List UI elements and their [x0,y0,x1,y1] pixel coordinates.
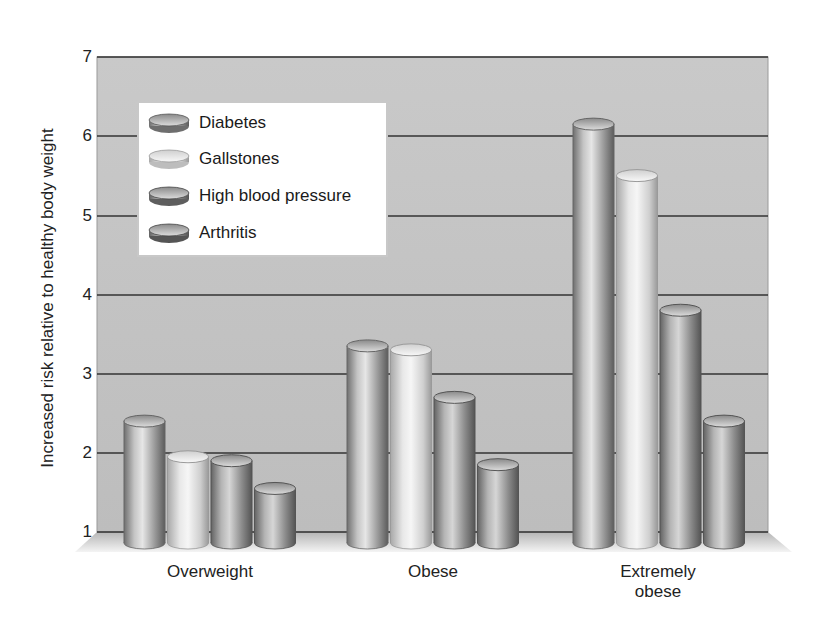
chart-canvas [0,0,818,617]
legend-item-high-blood-pressure: High blood pressure [147,184,351,208]
legend-item-arthritis: Arthritis [147,221,257,245]
legend-label: Diabetes [199,113,266,133]
legend: Diabetes Gallstones High blood pressure … [139,103,386,255]
legend-label: Arthritis [199,223,257,243]
legend-label: Gallstones [199,149,279,169]
y-tick-3: 3 [72,364,92,384]
legend-swatch-arthritis-icon [147,222,191,244]
bar-overweight-arthritis [255,482,296,549]
y-tick-6: 6 [72,126,92,146]
y-tick-1: 1 [72,522,92,542]
bar-extremely-obese-diabetes [573,118,614,549]
bar-obese-arthritis [478,459,519,549]
legend-item-gallstones: Gallstones [147,147,279,171]
x-category-extremely: Extremely [578,561,738,582]
bar-obese-gallstones [391,344,432,549]
x-category-overweight: Overweight [130,561,290,582]
bar-overweight-high-blood-pressure [211,455,252,549]
x-category-obese-line2: obese [578,581,738,602]
bar-extremely-obese-gallstones [617,170,658,549]
legend-label: High blood pressure [199,186,351,206]
bar-obese-diabetes [347,340,388,549]
bar-obese-high-blood-pressure [434,391,475,549]
y-tick-7: 7 [72,47,92,67]
bar-overweight-gallstones [168,451,209,549]
bar-overweight-diabetes [124,415,165,549]
bar-extremely-obese-arthritis [704,415,745,549]
x-category-obese: Obese [353,561,513,582]
legend-swatch-gallstones-icon [147,148,191,170]
legend-swatch-high-blood-pressure-icon [147,185,191,207]
bar-extremely-obese-high-blood-pressure [660,304,701,549]
y-tick-5: 5 [72,206,92,226]
legend-swatch-diabetes-icon [147,112,191,134]
legend-item-diabetes: Diabetes [147,111,266,135]
y-tick-2: 2 [72,443,92,463]
y-tick-4: 4 [72,285,92,305]
